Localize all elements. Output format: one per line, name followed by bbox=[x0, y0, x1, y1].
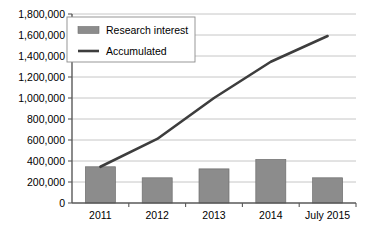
bar-2011 bbox=[85, 167, 115, 203]
y-tick-label: 600,000 bbox=[27, 134, 65, 146]
y-tick-label: 1,400,000 bbox=[18, 50, 65, 62]
bar-july-2015 bbox=[313, 178, 343, 203]
y-tick-label: 1,600,000 bbox=[18, 29, 65, 41]
x-axis-tick-labels: 2011201220132014July 2015 bbox=[89, 209, 350, 221]
y-tick-label: 400,000 bbox=[27, 155, 65, 167]
y-axis-tick-labels: 0200,000400,000600,000800,0001,000,0001,… bbox=[18, 8, 65, 209]
combo-bar-line-chart: 0200,000400,000600,000800,0001,000,0001,… bbox=[0, 0, 365, 233]
bar-2013 bbox=[199, 169, 229, 203]
bar-2014 bbox=[256, 159, 286, 203]
y-tick-label: 0 bbox=[59, 197, 65, 209]
chart-legend: Research interestAccumulated bbox=[67, 17, 195, 62]
legend-label-research-interest: Research interest bbox=[106, 24, 188, 36]
x-tick-label: 2012 bbox=[146, 209, 170, 221]
x-tick-label: 2013 bbox=[202, 209, 226, 221]
bar-series-research-interest bbox=[85, 159, 342, 203]
y-tick-label: 1,000,000 bbox=[18, 92, 65, 104]
legend-swatch-research-interest bbox=[78, 27, 99, 34]
x-tick-label: 2014 bbox=[259, 209, 283, 221]
x-tick-label: 2011 bbox=[89, 209, 112, 221]
chart-container: 0200,000400,000600,000800,0001,000,0001,… bbox=[0, 0, 365, 233]
y-tick-label: 1,200,000 bbox=[18, 71, 65, 83]
y-tick-label: 1,800,000 bbox=[18, 8, 65, 20]
x-tick-label: July 2015 bbox=[305, 209, 350, 221]
y-tick-label: 200,000 bbox=[27, 176, 65, 188]
legend-label-accumulated: Accumulated bbox=[106, 45, 167, 57]
y-tick-label: 800,000 bbox=[27, 113, 65, 125]
bar-2012 bbox=[142, 178, 172, 203]
